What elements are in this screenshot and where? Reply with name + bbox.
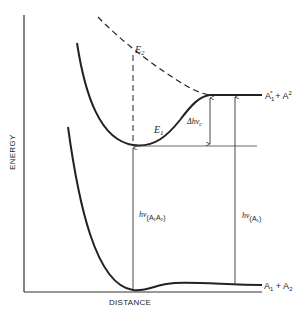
e2-label: E2 xyxy=(134,44,145,57)
delta-transition-label: Δhνc xyxy=(186,117,202,127)
complex-transition-label: hν(A₁A₂) xyxy=(139,210,166,222)
y-axis-label: ENERGY xyxy=(8,134,17,170)
x-axis-label: DISTANCE xyxy=(109,298,151,307)
atomic-transition-label: hν(A₁) xyxy=(242,211,261,223)
e2-dashed-curve xyxy=(98,17,210,95)
e1-curve xyxy=(77,43,262,145)
ground-state-curve xyxy=(68,127,262,290)
lower-asymptote-label: A1 + A2 xyxy=(264,281,293,292)
upper-asymptote-label: A1* + A2 xyxy=(265,90,292,102)
e1-label: E1 xyxy=(153,124,164,137)
energy-diagram: ENERGY DISTANCE E2 E1 A1* + A2 A1 + A2 h… xyxy=(0,0,302,318)
